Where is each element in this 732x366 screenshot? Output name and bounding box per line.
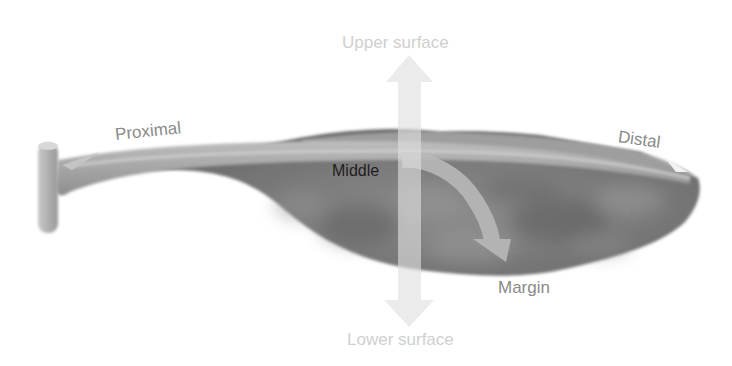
label-middle: Middle bbox=[332, 163, 379, 179]
vertical-arrow-shaft bbox=[398, 80, 421, 302]
leaf-diagram bbox=[0, 0, 732, 366]
label-upper-surface: Upper surface bbox=[342, 34, 449, 51]
label-margin: Margin bbox=[498, 279, 550, 296]
stem bbox=[38, 142, 58, 233]
label-lower-surface: Lower surface bbox=[347, 331, 454, 348]
stem-cylinder bbox=[38, 143, 58, 233]
upper-arrowhead bbox=[386, 55, 433, 82]
stem-top bbox=[38, 142, 58, 150]
lower-arrowhead bbox=[384, 300, 434, 327]
